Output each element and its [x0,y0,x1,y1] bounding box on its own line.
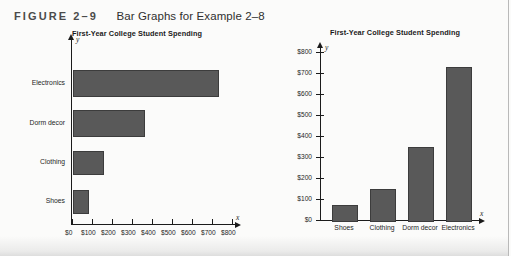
y-tick-700 [316,73,324,74]
y-tick-label-600: $600 [284,90,312,97]
x-tick-100 [92,219,93,225]
bar-dorm-decor [73,110,145,137]
category-label-shoes: Shoes [324,224,364,233]
x-tick-200 [112,219,113,225]
y-tick-label-400: $400 [284,132,312,139]
x-tick-0 [72,219,73,225]
y-tick-100 [316,199,324,200]
chart-title: First-Year College Student Spending [72,29,202,38]
x-axis-arrow-icon [479,218,485,224]
x-axis-label: x [236,213,239,222]
y-tick-800 [316,52,324,53]
category-label-clothing: Clothing [360,224,404,233]
category-label-clothing: Clothing [2,158,65,165]
category-label-electronics: Electronics [2,79,65,86]
page-edge-line [508,0,509,256]
y-axis-label: y [325,43,328,52]
x-tick-600 [192,219,193,225]
y-tick-label-100: $100 [284,195,312,202]
y-tick-200 [316,178,324,179]
bar-electronics [73,70,219,97]
y-tick-label-500: $500 [284,111,312,118]
category-label-electronics: Electronics [436,224,480,233]
horizontal-bar-chart: First-Year College Student Spending y x … [0,24,262,256]
x-tick-400 [152,219,153,225]
x-axis-label: x [480,209,483,218]
figure-caption-text: Bar Graphs for Example 2–8 [116,10,264,22]
x-tick-700 [212,219,213,225]
y-tick-label-0: $0 [284,216,312,223]
x-axis-arrow-icon [235,222,241,228]
y-tick-label-200: $200 [284,174,312,181]
bar-electronics [446,67,472,222]
x-tick-500 [172,219,173,225]
x-tick-label-100: $100 [81,229,96,236]
figure-number: FIGURE 2–9 [14,10,98,22]
y-tick-500 [316,115,324,116]
y-tick-label-700: $700 [284,69,312,76]
bar-shoes [332,205,358,222]
x-tick-label-500: $500 [161,229,176,236]
x-tick-label-700: $700 [201,229,216,236]
y-tick-400 [316,136,324,137]
figure-caption: FIGURE 2–9 Bar Graphs for Example 2–8 [14,6,265,24]
y-axis-arrow-icon [68,34,74,40]
chart-title: First-Year College Student Spending [330,28,460,37]
x-tick-label-400: $400 [141,229,156,236]
x-tick-300 [132,219,133,225]
y-tick-600 [316,94,324,95]
y-tick-label-300: $300 [284,153,312,160]
y-axis-label: y [76,35,79,44]
y-tick-0 [316,220,324,221]
x-tick-label-800: $800 [221,229,236,236]
x-tick-800 [232,219,233,225]
bar-shoes [73,190,89,214]
x-tick-label-300: $300 [121,229,136,236]
x-tick-label-600: $600 [181,229,196,236]
category-label-dorm-decor: Dorm decor [2,119,65,126]
y-tick-300 [316,157,324,158]
x-tick-label-200: $200 [101,229,116,236]
page-margin [511,0,524,256]
bar-clothing [73,151,104,175]
bar-dorm-decor [408,147,434,222]
y-tick-label-800: $800 [284,48,312,55]
category-label-shoes: Shoes [2,197,65,204]
x-tick-label-0: $0 [65,229,72,236]
y-axis-arrow-icon [317,42,323,48]
category-label-dorm-decor: Dorm decor [402,224,438,233]
bar-clothing [370,189,396,222]
vertical-bar-chart: First-Year College Student Spending y x … [262,24,508,256]
